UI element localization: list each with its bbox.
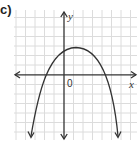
origin-label: 0 — [67, 78, 73, 89]
x-axis — [15, 72, 136, 79]
x-axis-label: x — [128, 78, 134, 90]
graph: y x 0 — [0, 0, 139, 141]
y-axis-label: y — [67, 10, 73, 22]
parabola-curve — [28, 48, 121, 138]
y-axis — [61, 12, 67, 139]
